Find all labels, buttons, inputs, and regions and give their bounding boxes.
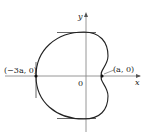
cusp-point-label: (a, 0) (113, 65, 134, 74)
y-axis-label: y (77, 12, 83, 21)
cusp-point (100, 74, 103, 77)
x-axis-label: x (135, 78, 140, 87)
y-axis-arrow-icon (84, 12, 88, 17)
left-intercept-label: (−3a, 0) (4, 66, 37, 75)
cardioid-curve (36, 32, 108, 119)
cardioid-diagram: (−3a, 0) (a, 0) 0 x y (0, 0, 148, 138)
origin-label: 0 (78, 79, 83, 88)
tangent-lines (36, 33, 96, 119)
